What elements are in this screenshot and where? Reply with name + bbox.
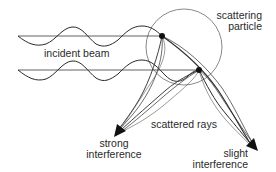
arrowhead-strong-icon (114, 124, 126, 137)
scattering-diagram: incident beam scattering particle scatte… (0, 0, 276, 172)
incident-wave-bottom (18, 60, 199, 81)
slight-interference-label-line2: interference (190, 159, 248, 170)
scattered-rays-label: scattered rays (151, 119, 217, 130)
scattered-ray-top-to-strong-3 (120, 36, 165, 130)
strong-interference-label: strong interference (86, 138, 142, 160)
scattered-ray-top-to-strong-1 (118, 36, 162, 130)
scattering-particle-label: scattering particle (216, 10, 262, 32)
incident-beam-label: incident beam (44, 48, 109, 59)
scatter-point-top (159, 33, 165, 39)
scattered-ray-bottom-to-slight-2 (199, 70, 253, 143)
slight-interference-label: slight interference (190, 148, 248, 170)
scattering-particle-label-line2: particle (216, 21, 262, 32)
scatter-point-bottom (196, 67, 202, 73)
strong-interference-label-line2: interference (86, 149, 142, 160)
